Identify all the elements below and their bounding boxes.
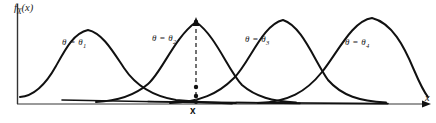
y-axis-label: fX(x) [14,2,33,16]
curve-label-theta-1: θ = θ1 [62,37,86,49]
curve-theta-3-tail [236,103,388,104]
curve-label-theta-4-subscript: 4 [366,42,370,49]
curve-theta-3 [170,20,386,103]
intersection-dot-theta-4 [194,100,198,104]
curve-label-theta-1-subscript: 1 [83,42,87,49]
curve-label-theta-4-text: θ = θ [345,37,366,47]
curve-label-theta-2-text: θ = θ [152,33,173,43]
figure-canvas [0,0,436,123]
curve-label-theta-2-subscript: 2 [173,38,177,45]
intersection-dot-theta-3 [194,85,198,89]
y-axis-label-arg: (x) [22,2,34,13]
curve-label-theta-3-text: θ = θ [245,34,266,44]
observation-value-label: x [190,105,196,116]
curve-label-theta-2: θ = θ2 [152,33,176,45]
likelihood-figure: fX(x) x x θ = θ1 θ = θ2 θ = θ3 θ = θ4 [0,0,436,123]
curve-label-theta-4: θ = θ4 [345,37,369,49]
curve-label-theta-1-text: θ = θ [62,37,83,47]
curve-theta-4 [258,18,428,103]
intersection-dot-theta-2 [194,20,198,24]
intersection-dot-theta-1 [194,94,198,98]
curve-label-theta-3-subscript: 3 [266,39,270,46]
x-axis-label: x [425,92,430,103]
curve-label-theta-3: θ = θ3 [245,34,269,46]
curve-theta-1 [20,30,232,104]
